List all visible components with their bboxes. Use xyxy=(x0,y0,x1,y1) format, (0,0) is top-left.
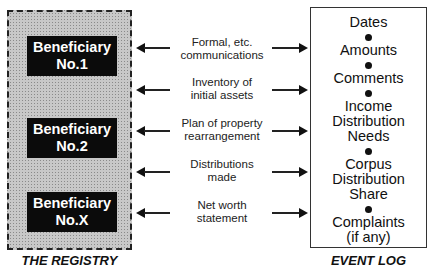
flow-communications: Formal, etc.communications xyxy=(136,34,308,64)
bullet-icon xyxy=(365,206,372,213)
arrow-line xyxy=(272,212,300,214)
beneficiary-x-box: Beneficiary No.X xyxy=(27,192,117,232)
bullet-icon xyxy=(365,90,372,97)
arrow-line xyxy=(272,47,300,49)
arrow-line xyxy=(144,47,170,49)
arrow-line xyxy=(272,130,300,132)
arrow-right-icon xyxy=(299,85,308,95)
event-item-amounts: Amounts xyxy=(311,43,426,58)
flow-plan: Plan of propertyrearrangement xyxy=(136,117,308,147)
event-log-box: Dates Amounts Comments Income Distributi… xyxy=(310,7,427,248)
bullet-icon xyxy=(365,148,372,155)
arrow-line xyxy=(272,171,300,173)
bullet-icon xyxy=(365,34,372,41)
event-log-caption: EVENT LOG xyxy=(310,253,427,268)
arrow-line xyxy=(144,212,170,214)
flow-label: Formal, etc.communications xyxy=(172,36,272,62)
event-item-income-distribution-needs: Income Distribution Needs xyxy=(311,99,426,144)
flow-label: Distributionsmade xyxy=(172,158,272,184)
bullet-icon xyxy=(365,62,372,69)
event-item-complaints: Complaints (if any) xyxy=(311,215,426,245)
arrow-right-icon xyxy=(299,208,308,218)
beneficiary-2-label: Beneficiary xyxy=(27,121,117,138)
beneficiary-2-number: No.2 xyxy=(27,138,117,155)
event-item-dates: Dates xyxy=(311,15,426,30)
arrow-line xyxy=(272,89,300,91)
event-item-corpus-distribution-share: Corpus Distribution Share xyxy=(311,157,426,202)
registry-box: Beneficiary No.1 Beneficiary No.2 Benefi… xyxy=(7,10,132,250)
beneficiary-1-box: Beneficiary No.1 xyxy=(27,36,117,76)
arrow-line xyxy=(144,89,170,91)
beneficiary-1-number: No.1 xyxy=(27,56,117,73)
registry-caption: THE REGISTRY xyxy=(7,253,132,268)
flow-label: Inventory ofinitial assets xyxy=(172,76,272,102)
beneficiary-2-box: Beneficiary No.2 xyxy=(27,118,117,158)
arrow-right-icon xyxy=(299,126,308,136)
arrow-right-icon xyxy=(299,167,308,177)
flow-distributions: Distributionsmade xyxy=(136,158,308,188)
flow-label: Net worthstatement xyxy=(172,199,272,225)
beneficiary-1-label: Beneficiary xyxy=(27,39,117,56)
flow-net-worth: Net worthstatement xyxy=(136,199,308,229)
arrow-right-icon xyxy=(299,43,308,53)
beneficiary-x-number: No.X xyxy=(27,212,117,229)
flow-inventory: Inventory ofinitial assets xyxy=(136,76,308,106)
beneficiary-x-label: Beneficiary xyxy=(27,195,117,212)
arrow-line xyxy=(144,130,170,132)
arrow-line xyxy=(144,171,170,173)
flow-label: Plan of propertyrearrangement xyxy=(172,117,272,143)
event-item-comments: Comments xyxy=(311,71,426,86)
